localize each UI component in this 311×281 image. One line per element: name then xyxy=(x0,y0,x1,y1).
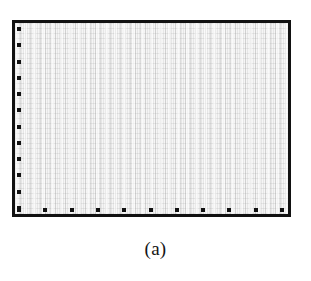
y-axis-tick xyxy=(17,125,21,129)
x-axis-tick xyxy=(70,208,74,212)
x-axis-tick xyxy=(280,208,284,212)
y-axis-tick xyxy=(17,141,21,145)
plot-grid xyxy=(15,23,288,214)
y-axis-tick xyxy=(17,60,21,64)
y-axis-tick xyxy=(17,173,21,177)
x-axis-tick xyxy=(175,208,179,212)
y-axis-tick xyxy=(17,27,21,31)
y-axis-tick xyxy=(17,92,21,96)
plot-frame xyxy=(12,20,291,217)
y-axis-tick xyxy=(17,108,21,112)
y-axis-tick xyxy=(17,190,21,194)
x-axis-tick xyxy=(201,208,205,212)
plot-scan-banding xyxy=(15,23,288,214)
y-axis-tick xyxy=(17,206,21,210)
figure-panel-a: (a) xyxy=(0,0,311,281)
x-axis-tick xyxy=(43,208,47,212)
plot-area xyxy=(15,23,288,214)
x-axis-tick xyxy=(149,208,153,212)
x-axis-tick xyxy=(254,208,258,212)
x-axis-tick xyxy=(227,208,231,212)
x-axis-tick xyxy=(17,208,21,212)
y-axis-tick xyxy=(17,76,21,80)
y-axis-tick xyxy=(17,43,21,47)
x-axis-tick xyxy=(122,208,126,212)
figure-caption: (a) xyxy=(0,238,311,260)
x-axis-tick xyxy=(96,208,100,212)
y-axis-tick xyxy=(17,157,21,161)
